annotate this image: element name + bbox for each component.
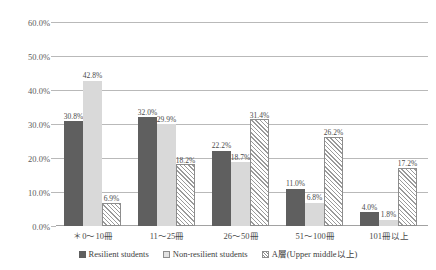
bar-resilient-students: 22.2% xyxy=(212,151,231,227)
y-axis-tick-label: 50.0% xyxy=(4,52,50,62)
bar-value-label: 29.9% xyxy=(157,116,176,124)
x-axis-category-label: 51～100冊 xyxy=(278,232,352,241)
x-axis-category-label: 11～25冊 xyxy=(130,232,204,241)
bar-resilient-students: 11.0% xyxy=(286,189,305,226)
bar-resilient-students: 4.0% xyxy=(360,212,379,226)
plot-area: 30.8% 42.8% 6.9% 32.0% 29.9% 18.2% 2 xyxy=(56,22,428,226)
legend-swatch-icon xyxy=(79,251,86,258)
bar-value-label: 26.2% xyxy=(324,129,343,137)
bar-group: 4.0% 1.8% 17.2% xyxy=(352,22,426,226)
legend-item-non-resilient-students[interactable]: Non-resilient students xyxy=(163,250,248,259)
bar-a-class-upper-middle: 18.2% xyxy=(176,164,195,226)
x-axis-category-label: 26～50冊 xyxy=(204,232,278,241)
bar-a-class-upper-middle: 31.4% xyxy=(250,119,269,226)
bar-value-label: 17.2% xyxy=(398,160,417,168)
y-axis-tick-label: 10.0% xyxy=(4,188,50,198)
bar-value-label: 6.8% xyxy=(307,194,323,202)
bar-non-resilient-students: 42.8% xyxy=(83,81,102,227)
y-axis-tick-label: 30.0% xyxy=(4,120,50,130)
bar-a-class-upper-middle: 26.2% xyxy=(324,137,343,226)
x-axis-category-label: 101冊以上 xyxy=(352,232,426,241)
legend-label: A層(Upper middle以上) xyxy=(272,250,358,259)
chart-legend: Resilient students Non-resilient student… xyxy=(0,250,436,259)
y-axis-tick-mark xyxy=(51,226,56,227)
legend-swatch-icon xyxy=(262,251,269,258)
bar-value-label: 22.2% xyxy=(212,142,231,150)
bar-value-label: 31.4% xyxy=(250,112,269,120)
y-axis-tick-label: 40.0% xyxy=(4,86,50,96)
bar-value-label: 30.8% xyxy=(64,113,83,121)
y-axis-tick-label: 60.0% xyxy=(4,18,50,28)
bar-group: 30.8% 42.8% 6.9% xyxy=(56,22,130,226)
bar-non-resilient-students: 18.7% xyxy=(231,162,250,226)
legend-label: Resilient students xyxy=(89,250,149,259)
bar-group: 11.0% 6.8% 26.2% xyxy=(278,22,352,226)
bar-value-label: 18.7% xyxy=(231,154,250,162)
bar-a-class-upper-middle: 17.2% xyxy=(398,168,417,227)
bar-resilient-students: 30.8% xyxy=(64,121,83,226)
bar-value-label: 18.2% xyxy=(176,157,195,165)
y-axis-tick-label: 20.0% xyxy=(4,154,50,164)
bar-resilient-students: 32.0% xyxy=(138,117,157,226)
legend-item-a-class-upper-middle[interactable]: A層(Upper middle以上) xyxy=(262,250,358,259)
bar-value-label: 4.0% xyxy=(362,204,378,212)
bar-group: 32.0% 29.9% 18.2% xyxy=(130,22,204,226)
bar-group: 22.2% 18.7% 31.4% xyxy=(204,22,278,226)
legend-label: Non-resilient students xyxy=(173,250,248,259)
bar-value-label: 6.9% xyxy=(104,195,120,203)
legend-swatch-icon xyxy=(163,251,170,258)
bar-non-resilient-students: 6.8% xyxy=(305,203,324,226)
bar-value-label: 1.8% xyxy=(381,211,397,219)
bar-a-class-upper-middle: 6.9% xyxy=(102,203,121,227)
bar-chart: 60.0% 50.0% 40.0% 30.0% 20.0% 10.0% 0.0%… xyxy=(0,0,436,270)
legend-item-resilient-students[interactable]: Resilient students xyxy=(79,250,149,259)
x-axis-category-label: ＊0～10冊 xyxy=(56,232,130,241)
bar-value-label: 11.0% xyxy=(286,180,305,188)
bar-value-label: 42.8% xyxy=(83,72,102,80)
y-axis-tick-label: 0.0% xyxy=(4,222,50,232)
bar-value-label: 32.0% xyxy=(138,109,157,117)
bar-non-resilient-students: 29.9% xyxy=(157,124,176,226)
bar-non-resilient-students: 1.8% xyxy=(379,220,398,226)
